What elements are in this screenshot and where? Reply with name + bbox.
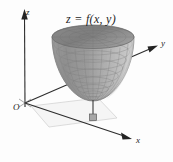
domain-point-marker xyxy=(90,114,97,121)
rim-mesh xyxy=(52,26,134,49)
axis-z-line xyxy=(21,9,28,107)
domain-region xyxy=(31,98,117,127)
surface-equation-label: z = f(x, y) xyxy=(66,13,116,25)
axis-y-label: y xyxy=(161,39,165,48)
axis-x-label: x xyxy=(136,136,140,145)
paraboloid-figure: z = f(x, y) z y x O xyxy=(0,0,173,162)
origin-label: O xyxy=(13,103,20,112)
paraboloid-rim xyxy=(52,26,134,49)
axis-z-label: z xyxy=(26,8,30,17)
